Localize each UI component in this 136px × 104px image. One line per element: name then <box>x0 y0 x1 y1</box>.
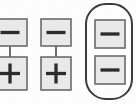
minus-icon <box>1 31 20 34</box>
node-middle-bottom[interactable] <box>41 57 71 90</box>
minus-icon <box>101 32 120 35</box>
group-left <box>0 19 27 90</box>
node-left-top[interactable] <box>0 19 27 46</box>
minus-icon <box>101 68 120 71</box>
node-right-bottom[interactable] <box>95 56 125 84</box>
node-link-figure <box>0 0 136 104</box>
group-middle <box>41 19 71 90</box>
figure-canvas <box>0 0 136 104</box>
group-right <box>86 4 132 99</box>
node-left-bottom[interactable] <box>0 57 27 90</box>
node-right-top[interactable] <box>95 20 125 48</box>
minus-icon <box>47 31 66 34</box>
node-middle-top[interactable] <box>41 19 71 46</box>
